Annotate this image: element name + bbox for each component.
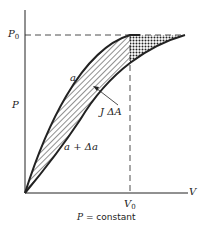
jda-label: J ΔA [100,107,122,117]
curve-a-plus-da-label: a + Δa [64,142,98,152]
v0-label: V0 [124,199,136,211]
x-axis-label: V [189,187,196,197]
jda-pointer [96,88,118,105]
y-axis-label: P [12,100,19,110]
p0-label: P0 [8,29,19,41]
curve-a-label: a [70,73,76,83]
caption: P = constant [77,212,135,222]
